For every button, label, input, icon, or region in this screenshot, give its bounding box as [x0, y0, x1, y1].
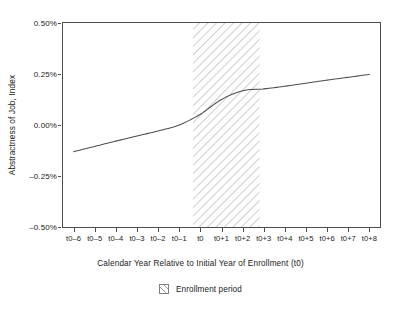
y-tick-label: 0.00% [34, 121, 57, 130]
y-tick-mark [58, 23, 61, 24]
x-tick-mark [158, 228, 159, 232]
y-tick-mark [58, 176, 61, 177]
x-tick-label: t0+4 [277, 234, 292, 243]
x-tick-mark [306, 228, 307, 232]
legend-label: Enrollment period [176, 285, 242, 294]
chart-canvas [63, 23, 380, 227]
chart-legend: Enrollment period [0, 284, 401, 294]
y-tick-label: –0.25% [29, 172, 57, 181]
x-tick-label: t0–6 [66, 234, 81, 243]
y-tick-mark [58, 74, 61, 75]
x-tick-mark [137, 228, 138, 232]
x-tick-mark [348, 228, 349, 232]
x-axis-title: Calendar Year Relative to Initial Year o… [0, 259, 401, 268]
x-tick-mark [116, 228, 117, 232]
y-tick-label: 0.25% [34, 70, 57, 79]
x-tick-mark [327, 228, 328, 232]
x-tick-label: t0+5 [298, 234, 313, 243]
x-tick-mark [74, 228, 75, 232]
chart-figure: Abstractness of Job, Index 0.50%0.25%0.0… [0, 0, 401, 311]
x-tick-mark [179, 228, 180, 232]
x-tick-mark [264, 228, 265, 232]
plot-area [62, 22, 381, 228]
hatch-swatch-icon [159, 284, 169, 294]
x-tick-label: t0+1 [214, 234, 229, 243]
x-tick-label: t0+8 [362, 234, 377, 243]
x-tick-label: t0–1 [172, 234, 187, 243]
x-tick-label: t0–5 [87, 234, 102, 243]
x-tick-mark [243, 228, 244, 232]
x-tick-mark [95, 228, 96, 232]
x-tick-label: t0+3 [256, 234, 271, 243]
y-tick-mark [58, 227, 61, 228]
x-tick-label: t0 [197, 234, 203, 243]
x-tick-label: t0+2 [235, 234, 250, 243]
y-tick-mark [58, 125, 61, 126]
enrollment-period-band [193, 23, 260, 227]
x-tick-label: t0+6 [320, 234, 335, 243]
y-tick-label: 0.50% [34, 19, 57, 28]
x-tick-label: t0+7 [341, 234, 356, 243]
x-tick-mark [222, 228, 223, 232]
x-tick-mark [200, 228, 201, 232]
y-axis-title: Abstractness of Job, Index [8, 35, 17, 215]
x-tick-label: t0–2 [151, 234, 166, 243]
x-tick-label: t0–3 [129, 234, 144, 243]
plot-inner [63, 23, 380, 227]
y-tick-label: –0.50% [29, 223, 57, 232]
x-tick-mark [369, 228, 370, 232]
x-tick-mark [285, 228, 286, 232]
x-tick-label: t0–4 [108, 234, 123, 243]
